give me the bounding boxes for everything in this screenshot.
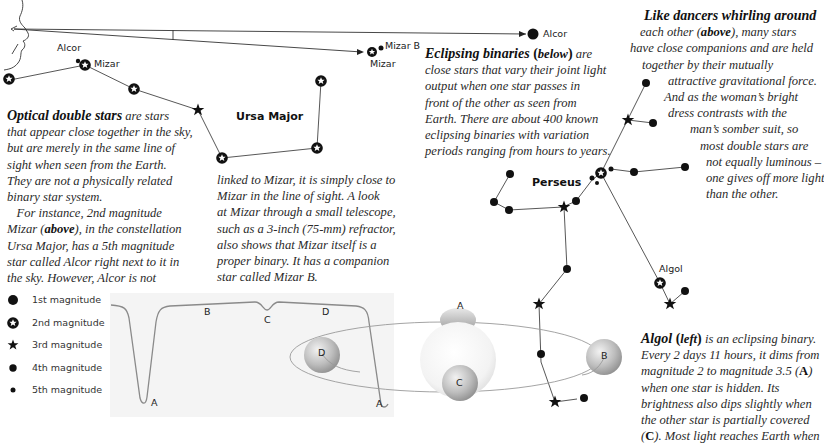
- mizar-far-label: Mizar: [370, 58, 396, 69]
- perseus-star: [664, 298, 677, 310]
- legend-item-5th: 5th magnitude: [32, 384, 102, 395]
- alcor-near-label: Alcor: [57, 42, 81, 53]
- legend-2nd-magnitude-icon: [7, 317, 19, 329]
- mizar-near-star: [79, 59, 91, 71]
- alcor-far-star: [528, 29, 539, 40]
- perseus-star: [537, 350, 545, 358]
- eclipsing-binaries-lead: Eclipsing binaries: [425, 46, 530, 61]
- ursa-major-star: [315, 75, 327, 87]
- perseus-star: [572, 197, 580, 205]
- perseus-star: [630, 168, 638, 176]
- orbit-label-b: B: [601, 350, 608, 361]
- alcor-near-star: [76, 59, 80, 63]
- legend-item-1st: 1st magnitude: [32, 294, 101, 305]
- curve-label-c: C: [264, 314, 271, 325]
- perseus-star: [622, 114, 635, 126]
- perseus-star: [590, 176, 595, 181]
- optical-double-text-continued: linked to Mizar, it is simply close to M…: [217, 172, 402, 285]
- mizar-far-star: [367, 47, 377, 57]
- ursa-major-label: Ursa Major: [236, 110, 303, 123]
- curve-label-d: D: [322, 306, 329, 317]
- ursa-major-star: [216, 152, 228, 164]
- perseus-star: [595, 167, 607, 179]
- algol-lead: Algol: [641, 331, 672, 346]
- perseus-star: [505, 206, 513, 214]
- mizar-b-label: Mizar B: [385, 40, 420, 51]
- perseus-star: [595, 181, 599, 185]
- arrowhead-icon: [357, 49, 364, 55]
- ursa-major-star: [311, 142, 323, 154]
- perseus-star: [490, 198, 498, 206]
- eclipsing-binaries-text: Eclipsing binaries (below) are close sta…: [425, 46, 615, 159]
- perseus-star: [681, 287, 689, 295]
- legend-item-2nd: 2nd magnitude: [32, 317, 105, 328]
- legend-item-4th: 4th magnitude: [32, 362, 102, 373]
- dancers-text: Like dancers whirling around each other …: [640, 8, 820, 202]
- algol-label: Algol: [659, 263, 683, 274]
- mizar-near-label: Mizar: [94, 58, 120, 69]
- algol-star: [654, 277, 666, 289]
- perseus-star: [580, 394, 588, 402]
- ursa-major-star: [128, 83, 140, 95]
- face-profile-icon: [4, 0, 29, 70]
- dancers-lead: Like dancers whirling around: [644, 8, 820, 24]
- curve-label-b: B: [204, 306, 211, 317]
- alcor-far-label: Alcor: [543, 28, 567, 39]
- ursa-major-star: [192, 104, 205, 116]
- legend-5th-magnitude-icon: [11, 388, 16, 393]
- legend-1st-magnitude-icon: [8, 295, 18, 305]
- perseus-star: [506, 170, 514, 178]
- perseus-label: Perseus: [532, 176, 581, 189]
- ursa-major-star: [3, 73, 15, 85]
- optical-double-text: Optical double stars are stars that appe…: [7, 108, 187, 286]
- legend-3rd-magnitude-icon: [8, 340, 19, 350]
- orbit-label-a: A: [457, 300, 464, 311]
- algol-text: Algol (left) is an eclipsing binary. Eve…: [641, 331, 821, 444]
- legend-item-3rd: 3rd magnitude: [32, 339, 102, 350]
- curve-label-a-right: A: [376, 398, 383, 409]
- optical-double-lead: Optical double stars: [7, 108, 122, 123]
- perseus-star: [609, 167, 614, 172]
- orbit-label-c: C: [456, 377, 463, 388]
- arrowhead-icon: [519, 31, 526, 37]
- mizar-b-star: [379, 46, 384, 51]
- legend-4th-magnitude-icon: [9, 364, 16, 371]
- orbit-label-d: D: [318, 347, 325, 358]
- perseus-star: [563, 265, 571, 273]
- curve-label-a-left: A: [151, 397, 158, 408]
